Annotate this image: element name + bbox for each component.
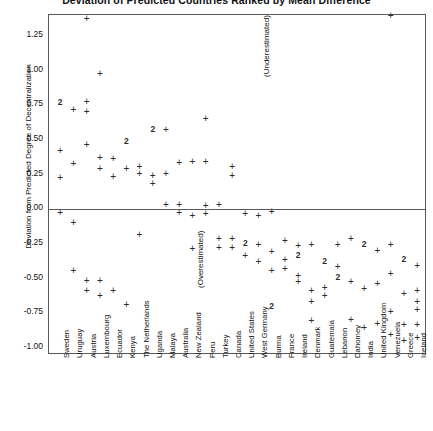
data-point: + [71,266,77,275]
data-point: + [71,105,77,114]
data-point: + [71,217,77,226]
data-point: + [97,291,103,300]
data-point: + [256,210,262,219]
y-tick-label: 0.00 [26,202,43,212]
x-axis-label-france: France [287,334,296,358]
data-point: + [388,269,394,278]
data-point: + [163,199,169,208]
y-tick-label: -0.50 [24,272,43,282]
data-point: + [388,11,394,20]
data-point: + [203,156,209,165]
data-point: + [110,153,116,162]
x-axis-label-peru: Peru [208,342,217,358]
data-point: + [375,245,381,254]
data-point: + [123,299,129,308]
data-point: + [216,199,222,208]
data-point: + [414,320,420,329]
data-point: 2 [269,302,274,311]
data-point: + [229,242,235,251]
data-point: + [348,277,354,286]
data-point: + [414,305,420,314]
x-axis-label-the-netherlands: The Netherlands [142,300,151,358]
data-point: + [97,152,103,161]
x-axis-label-ireland: Ireland [300,334,309,358]
x-axis-label-india: India [366,341,375,358]
data-point: + [71,159,77,168]
data-point: + [84,97,90,106]
x-axis-label-austria: Austria [89,334,98,358]
data-point: 2 [296,251,301,260]
x-axis-label-new-zealand: New Zealand [194,312,203,358]
data-point: 2 [243,238,248,247]
data-point: + [163,124,169,133]
data-point: + [308,239,314,248]
data-point: + [308,296,314,305]
data-point: + [176,208,182,217]
data-point: + [388,239,394,248]
scatter-plot-figure: Deviation of Predicted Countries Ranked … [0,0,433,431]
data-point: + [123,163,129,172]
plot-area: 2+++++++++++++++++++++2+++++2+++++++++++… [48,14,426,354]
data-point: 2 [401,255,406,264]
data-point: + [163,169,169,178]
x-axis-label-dahomey: Dahomey [353,325,362,358]
x-axis-label-lebanon: Lebanon [340,328,349,358]
zero-reference-line [49,209,425,210]
data-point: + [189,156,195,165]
x-axis-label-venezuela: Venezuela [393,322,402,358]
data-point: + [203,113,209,122]
data-point: 2 [124,137,129,146]
data-point: + [414,260,420,269]
x-axis-label-guatemala: Guatemala [327,320,336,358]
data-point: + [84,285,90,294]
data-point: + [189,244,195,253]
data-point: + [269,266,275,275]
data-point: + [189,210,195,219]
data-point: + [97,276,103,285]
x-axis-label-canada: Canada [234,331,243,358]
data-point: 2 [362,239,367,248]
y-tick-label: 1.00 [26,64,43,74]
x-axis-label-burma: Burma [274,335,283,358]
data-point: + [97,69,103,78]
data-point: + [335,262,341,271]
data-point: + [282,263,288,272]
data-point: 2 [335,273,340,282]
data-point: + [308,285,314,294]
y-tick-label: 1.25 [26,29,43,39]
data-point: + [322,291,328,300]
x-axis-label-united-kingdom: United Kingdom [379,303,388,358]
data-point: 2 [150,124,155,133]
x-axis-label-uruguay: Uruguay [75,329,84,358]
x-axis-label-iceland: Iceland [419,333,428,358]
data-point: + [57,145,63,154]
data-point: + [203,209,209,218]
data-point: + [110,171,116,180]
data-point: + [256,256,262,265]
data-point: + [84,276,90,285]
data-point: + [150,178,156,187]
annotation-overestimated: (Overestimated) [196,231,205,288]
x-axis-label-kenya: Kenya [128,336,137,358]
page-title: Deviation of Predicted Countries Ranked … [0,0,433,6]
data-point: + [308,316,314,325]
data-point: + [84,140,90,149]
data-point: + [229,170,235,179]
data-point: + [84,106,90,115]
data-point: + [388,306,394,315]
data-point: + [137,230,143,239]
data-point: + [176,158,182,167]
x-axis-label-united-states: United States [247,311,256,358]
data-point: + [242,251,248,260]
data-point: + [375,278,381,287]
data-point: + [361,284,367,293]
data-point: + [361,323,367,332]
y-tick-label: -0.25 [24,237,43,247]
x-axis-label-australia: Australia [181,328,190,358]
y-tick-label: 0.50 [26,133,43,143]
data-point: + [282,235,288,244]
annotation-underestimated: (Underestimated) [262,16,271,78]
data-point: + [295,277,301,286]
data-point: + [110,285,116,294]
x-axis-label-uganda: Uganda [155,331,164,358]
